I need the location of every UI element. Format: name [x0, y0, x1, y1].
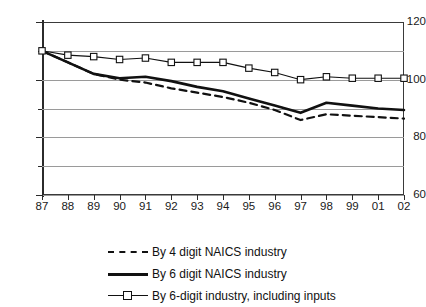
- chart-area: 1201008060 87888990919293949596979899010…: [0, 0, 426, 215]
- legend-item-4-digit: By 4 digit NAICS industry: [108, 242, 287, 262]
- data-point-marker: [142, 55, 148, 61]
- legend-item-6-digit-inputs: By 6-digit industry, including inputs: [108, 286, 336, 306]
- legend-label-4-digit: By 4 digit NAICS industry: [148, 245, 287, 259]
- data-point-marker: [323, 74, 329, 80]
- data-point-marker: [246, 65, 252, 71]
- legend-label-6-digit-inputs: By 6-digit industry, including inputs: [148, 289, 336, 303]
- data-point-marker: [91, 53, 97, 59]
- square-marker-icon: [123, 291, 132, 300]
- data-point-marker: [272, 69, 278, 75]
- chart-page: 1201008060 87888990919293949596979899010…: [0, 0, 426, 307]
- data-point-marker: [65, 52, 71, 58]
- legend-label-6-digit: By 6 digit NAICS industry: [148, 267, 287, 281]
- data-point-marker: [220, 59, 226, 65]
- series-3: [39, 48, 407, 83]
- chart-legend: By 4 digit NAICS industry By 6 digit NAI…: [0, 240, 426, 307]
- legend-item-6-digit: By 6 digit NAICS industry: [108, 264, 287, 284]
- data-point-marker: [168, 59, 174, 65]
- data-point-marker: [116, 56, 122, 62]
- data-point-marker: [194, 59, 200, 65]
- legend-swatch-dashed: [108, 245, 148, 259]
- data-point-marker: [297, 76, 303, 82]
- legend-swatch-solid: [108, 267, 148, 281]
- data-point-marker: [401, 75, 407, 81]
- legend-swatch-square-marker: [108, 289, 148, 303]
- data-point-marker: [39, 48, 45, 54]
- series-lines: [0, 0, 426, 215]
- data-point-marker: [375, 75, 381, 81]
- data-point-marker: [349, 75, 355, 81]
